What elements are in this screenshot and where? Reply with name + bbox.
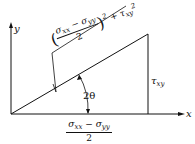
fraction-numerator: σxx − σyy	[66, 120, 112, 133]
x-axis-arrow-icon	[178, 112, 185, 116]
angle-label: 2θ	[83, 91, 95, 101]
horizontal-side-fraction: σxx − σyy 2	[66, 120, 112, 143]
fraction-denominator: 2	[66, 133, 112, 143]
x-axis-label: x	[186, 109, 192, 119]
tau-xy-label: τxy	[151, 76, 164, 88]
y-axis-arrow-icon	[9, 22, 13, 28]
angle-arrow-icon	[86, 109, 90, 114]
y-axis-label: y	[14, 24, 20, 34]
hypotenuse-line	[11, 34, 148, 114]
